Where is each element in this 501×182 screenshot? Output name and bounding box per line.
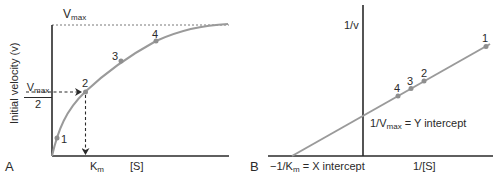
panel-b-point-1 — [484, 44, 489, 49]
panel-b-y-axis-label: 1/v — [344, 19, 359, 31]
panel-a-point-2-label: 2 — [82, 77, 88, 89]
panel-b-plot — [268, 5, 493, 156]
panel-a-half-vmax-label: Vmax 2 — [24, 81, 52, 110]
vmax-main: V — [63, 7, 71, 21]
panel-b-point-2-label: 2 — [421, 67, 427, 79]
panel-a-vmax-label: Vmax — [63, 8, 86, 24]
panel-a-point-1 — [55, 136, 60, 141]
panel-a-point-3 — [119, 59, 124, 64]
panel-b-x-intercept-label: −1/Km = X intercept — [270, 160, 365, 176]
vmax-sub: max — [71, 13, 86, 22]
panel-b-point-4-label: 4 — [394, 82, 400, 94]
half-vmax-denominator: 2 — [24, 98, 52, 110]
panel-b-lineweaver-burk-line — [292, 44, 490, 156]
panel-b-y-intercept-label: 1/Vmax = Y intercept — [370, 117, 466, 133]
panel-b-point-1-label: 1 — [482, 32, 488, 44]
panel-a-point-4-label: 4 — [152, 28, 158, 40]
panel-a-x-axis-label: [S] — [130, 160, 143, 172]
diagram-canvas — [0, 0, 501, 182]
half-vmax-numerator: Vmax — [24, 81, 52, 98]
panel-a-point-1-label: 1 — [61, 133, 67, 145]
panel-a-y-axis-label: Initial velocity (v) — [8, 43, 20, 124]
panel-a-point-2 — [83, 90, 88, 95]
panel-b-point-2 — [422, 79, 427, 84]
panel-a-point-3-label: 3 — [112, 50, 118, 62]
panel-a-plot — [26, 24, 229, 156]
panel-b-x-axis-label: 1/[S] — [413, 160, 436, 172]
panel-a-label: A — [5, 160, 14, 174]
panel-b-label: B — [250, 160, 259, 174]
panel-a-michaelis-menten-curve — [52, 24, 228, 156]
panel-b-point-3-label: 3 — [407, 75, 413, 87]
panel-b-point-4 — [396, 94, 401, 99]
panel-a-km-label: Km — [90, 160, 104, 176]
